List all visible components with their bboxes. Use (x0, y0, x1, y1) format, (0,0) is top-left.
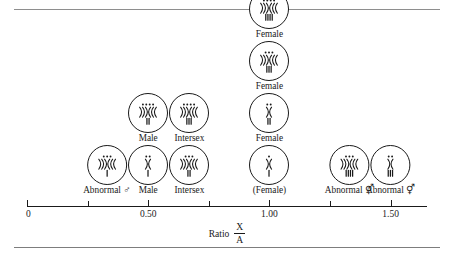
x-axis-title: RatioXA (0, 222, 454, 245)
x-axis-tick (148, 200, 149, 207)
karyotype-disc-icon (329, 145, 369, 185)
karyotype-cell-label-text: Abnormal (83, 185, 121, 195)
karyotype-cell-label: Abnormal ⚥ (366, 185, 415, 196)
x-axis-tick (391, 200, 392, 207)
karyotype-cell-label: Female (256, 133, 283, 144)
karyotype-cell[interactable]: Female (249, 41, 289, 92)
axis-title-word: Ratio (209, 229, 230, 239)
x-over-a-fraction: XA (234, 222, 245, 245)
karyotype-disc-icon (128, 93, 168, 133)
karyotype-cell-label: Intersex (174, 133, 204, 144)
karyotype-cell-label-text: Male (139, 185, 158, 195)
karyotype-disc-icon (371, 145, 411, 185)
karyotype-disc-icon (169, 145, 209, 185)
karyotype-cell-label: Female (256, 29, 283, 40)
karyotype-cell[interactable]: Female (249, 0, 289, 40)
karyotype-cell-label-text: Female (256, 29, 283, 39)
x-axis-tick-label: 1.00 (261, 209, 278, 220)
karyotype-cell[interactable]: Intersex (169, 145, 209, 196)
fraction-bar (234, 233, 245, 234)
karyotype-disc-icon (249, 145, 289, 185)
karyotype-cell[interactable]: Abnormal ⚥ (366, 145, 415, 196)
karyotype-cell-label-text: Abnormal (366, 185, 404, 195)
karyotype-disc-icon (128, 145, 168, 185)
karyotype-cell[interactable]: Male (128, 145, 168, 196)
x-axis-tick (209, 201, 210, 207)
karyotype-disc-icon (249, 93, 289, 133)
karyotype-cell[interactable]: (Female) (249, 145, 289, 196)
karyotype-disc-icon (169, 93, 209, 133)
karyotype-cell-label: Intersex (174, 185, 204, 196)
karyotype-cell-label: Male (139, 185, 158, 196)
karyotype-cell-label-text: Female (256, 133, 283, 143)
x-axis-tick (269, 200, 270, 207)
x-axis-tick (330, 201, 331, 207)
karyotype-disc-icon (249, 0, 289, 29)
karyotype-cell-label-text: Male (139, 133, 158, 143)
karyotype-column: Abnormal ⚥ (366, 145, 415, 197)
x-axis-tick (88, 201, 89, 207)
karyotype-disc-icon (249, 41, 289, 81)
fraction-denominator: A (234, 235, 245, 245)
karyotype-cell-label: Abnormal ♂ (83, 185, 131, 196)
x-axis-tick-label: 1.50 (382, 209, 399, 220)
karyotype-cell-label-text: Intersex (174, 133, 204, 143)
karyotype-cell[interactable]: Intersex (169, 93, 209, 144)
fraction-numerator: X (234, 222, 245, 232)
karyotype-column: IntersexIntersex (169, 93, 209, 197)
karyotype-cell-label-text: Abnormal (325, 185, 363, 195)
karyotype-cell-label: Male (139, 133, 158, 144)
karyotype-column: MaleMale (128, 93, 168, 197)
female-sex-icon: ⚥ (404, 184, 416, 195)
karyotype-cell-label-text: Intersex (174, 185, 204, 195)
bottom-rule (14, 247, 440, 248)
karyotype-cell-label: Female (256, 81, 283, 92)
karyotype-cell[interactable]: Abnormal ♂ (83, 145, 131, 196)
karyotype-cell[interactable]: Female (249, 93, 289, 144)
top-rule (14, 9, 440, 10)
karyotype-column: Abnormal ♂ (83, 145, 131, 197)
x-axis-tick-label: 0 (26, 209, 31, 220)
figure-canvas: Abnormal ♂MaleMaleIntersexIntersex(Femal… (0, 0, 454, 264)
karyotype-cell-label-text: Female (256, 81, 283, 91)
karyotype-cell[interactable]: Male (128, 93, 168, 144)
karyotype-disc-icon (87, 145, 127, 185)
karyotype-cell-label: (Female) (253, 185, 287, 196)
karyotype-column: (Female)FemaleFemaleFemale (249, 0, 289, 197)
karyotype-cell-label-text: (Female) (253, 185, 287, 195)
x-axis-tick (27, 200, 28, 207)
x-axis-tick-label: 0.50 (140, 209, 157, 220)
